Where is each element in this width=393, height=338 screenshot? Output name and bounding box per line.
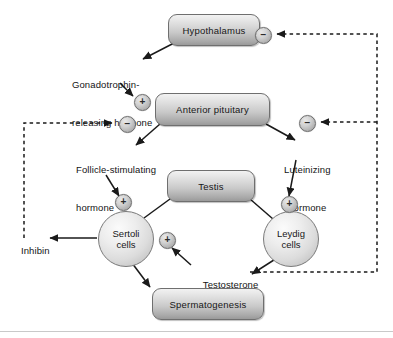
label-fsh-line1: Follicle-stimulating <box>76 164 156 177</box>
sign-leydig-positive-symbol: + <box>287 199 293 209</box>
label-gnrh-line1: Gonadotrophin- <box>72 79 152 92</box>
label-gnrh-line2: releasing hormone <box>72 117 152 130</box>
label-fsh: Follicle-stimulating hormone <box>76 139 156 239</box>
sign-leydig-positive[interactable]: + <box>281 196 298 213</box>
sertoli-label-line2: cells <box>113 239 140 250</box>
node-hypothalamus-label: Hypothalamus <box>182 25 245 36</box>
sign-hypothalamus-negative[interactable]: − <box>255 27 272 44</box>
label-lh-line1: Luteinizing <box>284 164 331 177</box>
sign-lh-negative[interactable]: − <box>299 115 316 132</box>
node-testis[interactable]: Testis <box>167 170 255 202</box>
node-hypothalamus[interactable]: Hypothalamus <box>168 14 260 46</box>
label-lh: Luteinizing hormone <box>284 139 331 239</box>
sign-sertoli-testosterone-positive-symbol: + <box>165 235 171 245</box>
sign-pituitary-negative[interactable]: − <box>119 116 136 133</box>
edge-pituitary-to-lh <box>266 124 295 140</box>
sign-pituitary-positive-symbol: + <box>140 97 146 107</box>
sign-sertoli-positive[interactable]: + <box>115 194 132 211</box>
sign-sertoli-testosterone-positive[interactable]: + <box>159 232 176 249</box>
edge-testis-to-leydig <box>250 199 273 219</box>
edge-testosterone-to-sertoli-plus <box>172 248 191 265</box>
label-inhibin: Inhibin <box>10 232 50 270</box>
sign-pituitary-negative-symbol: − <box>125 119 131 129</box>
node-testis-label: Testis <box>198 181 223 192</box>
label-testosterone-text: Testosterone <box>203 279 259 290</box>
label-inhibin-text: Inhibin <box>21 245 50 256</box>
node-anterior-pituitary-label: Anterior pituitary <box>176 104 249 115</box>
sign-pituitary-positive[interactable]: + <box>134 94 151 111</box>
leydig-label-line2: cells <box>277 239 305 250</box>
diagram-canvas: Hypothalamus Anterior pituitary Testis S… <box>0 0 393 338</box>
node-anterior-pituitary[interactable]: Anterior pituitary <box>155 93 270 126</box>
label-testosterone: Testosterone <box>192 266 258 304</box>
edge-sertoli-to-spermatogenesis <box>132 263 150 287</box>
sign-lh-negative-symbol: − <box>305 118 311 128</box>
sign-sertoli-positive-symbol: + <box>121 197 127 207</box>
sign-hypothalamus-negative-symbol: − <box>261 30 267 40</box>
